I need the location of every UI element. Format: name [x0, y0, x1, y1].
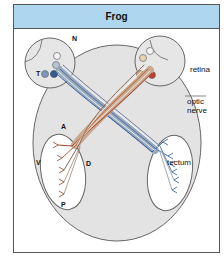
axis-nasal: N [72, 35, 77, 42]
label-retina: retina [190, 65, 211, 74]
left-retina-cell-1-icon [54, 53, 61, 60]
right-retina-cell-1-icon [147, 48, 154, 55]
label-optic-nerve-2: nerve [187, 106, 208, 115]
label-tectum: tectum [167, 158, 191, 167]
axis-ventral: V [36, 159, 41, 166]
axis-posterior: P [61, 201, 66, 208]
right-retina-cell-2-icon [140, 55, 147, 62]
label-optic-nerve-1: optic [187, 97, 204, 106]
axis-dorsal: D [86, 160, 91, 167]
left-retina-cell-3-icon [42, 71, 49, 78]
axis-temporal: T [36, 70, 41, 77]
axis-anterior: A [61, 123, 66, 130]
frog-retinotectal-diagram: retina optic nerve tectum N T A V D P [0, 0, 224, 258]
